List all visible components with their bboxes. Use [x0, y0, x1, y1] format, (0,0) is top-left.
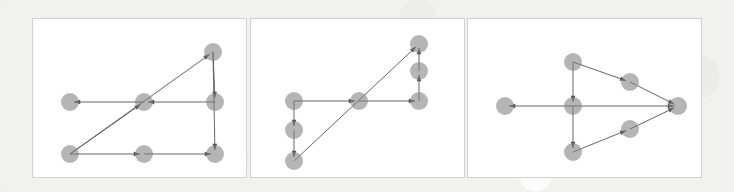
- graph-canvas-2: [251, 19, 466, 179]
- graph-node[interactable]: [61, 93, 79, 111]
- graph-node[interactable]: [410, 35, 428, 53]
- graph-node[interactable]: [669, 97, 687, 115]
- graph-node[interactable]: [564, 53, 582, 71]
- graph-panel-2[interactable]: [250, 18, 465, 178]
- figure-root: [0, 0, 734, 192]
- graph-panel-1[interactable]: [32, 18, 247, 178]
- graph-node[interactable]: [206, 93, 224, 111]
- graph-node[interactable]: [285, 152, 303, 170]
- graph-node[interactable]: [204, 43, 222, 61]
- graph-node[interactable]: [410, 92, 428, 110]
- graph-node[interactable]: [621, 120, 639, 138]
- graph-edge: [70, 104, 141, 154]
- graph-node[interactable]: [564, 143, 582, 161]
- graph-panel-3[interactable]: [467, 18, 702, 178]
- graph-node[interactable]: [410, 62, 428, 80]
- graph-node[interactable]: [350, 92, 368, 110]
- graph-node[interactable]: [135, 145, 153, 163]
- graph-node[interactable]: [621, 73, 639, 91]
- graph-node[interactable]: [564, 97, 582, 115]
- graph-canvas-1: [33, 19, 248, 179]
- graph-node[interactable]: [496, 97, 514, 115]
- graph-node[interactable]: [285, 92, 303, 110]
- graph-node[interactable]: [206, 145, 224, 163]
- graph-node[interactable]: [61, 145, 79, 163]
- graph-node[interactable]: [135, 93, 153, 111]
- graph-canvas-3: [468, 19, 703, 179]
- graph-node[interactable]: [285, 121, 303, 139]
